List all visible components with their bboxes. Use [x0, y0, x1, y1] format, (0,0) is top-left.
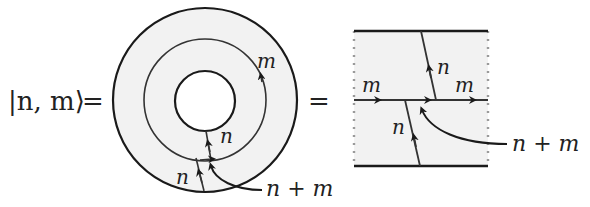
equals-sign-2: =: [308, 86, 330, 116]
label-n-inner: n: [220, 124, 233, 148]
label-n-upper: n: [437, 55, 450, 79]
square-shading: [354, 31, 488, 166]
label-n-plus-m-right: n + m: [512, 131, 579, 156]
annulus-diagram: m n n n + m: [113, 8, 333, 201]
label-n-plus-m-left: n + m: [266, 176, 333, 201]
equals-sign-1: =: [82, 86, 104, 116]
label-m-right: m: [455, 73, 474, 97]
diagram-canvas: |n, m⟩ = m n n n + m =: [0, 0, 590, 207]
square-diagram: m m n n n + m: [354, 31, 579, 166]
label-n-lower: n: [176, 165, 189, 189]
junction-arrow-icon: [200, 159, 212, 160]
inner-hole: [175, 71, 235, 131]
m-arrow-icon: [261, 76, 262, 82]
label-n-lower-square: n: [392, 115, 405, 139]
label-m-loop: m: [257, 49, 276, 73]
ket-lhs: |n, m⟩: [8, 86, 85, 116]
label-m-left: m: [362, 73, 381, 97]
